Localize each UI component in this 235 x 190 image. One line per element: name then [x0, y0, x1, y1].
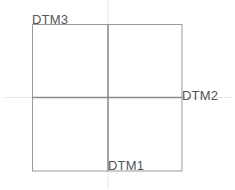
label-dtm2: DTM2	[182, 89, 218, 102]
label-dtm3: DTM3	[32, 13, 68, 26]
label-dtm1: DTM1	[108, 159, 144, 172]
datum-diagram: DTM3 DTM2 DTM1	[0, 0, 235, 190]
